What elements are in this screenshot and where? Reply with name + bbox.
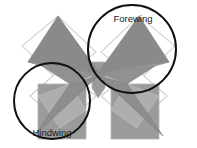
forewing-label: Forewing — [113, 13, 152, 24]
hindwing-label: Hindwing — [32, 127, 71, 138]
butterfly-wing-figure: Forewing Hindwing — [0, 0, 197, 148]
figure-canvas: Forewing Hindwing — [0, 0, 197, 148]
